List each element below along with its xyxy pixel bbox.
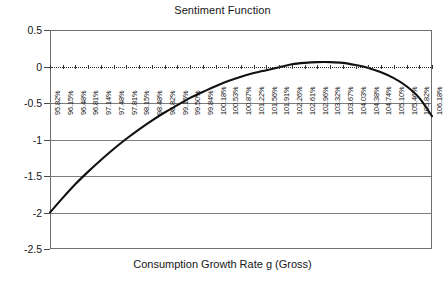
x-axis-title: Consumption Growth Rate g (Gross) — [0, 258, 445, 270]
y-axis-labels: 0.50-0.5-1-1.5-2-2.5 — [0, 30, 42, 249]
sentiment-curve — [50, 30, 432, 249]
x-axis-tick-label: 106.18% — [435, 86, 444, 114]
y-axis-tick-label: 0 — [2, 61, 42, 73]
y-axis-tick — [44, 249, 50, 250]
y-axis-tick — [44, 30, 50, 31]
sentiment-function-chart: Sentiment Function 0.50-0.5-1-1.5-2-2.5 … — [0, 0, 445, 282]
y-axis-tick-label: -2 — [2, 207, 42, 219]
y-axis-tick — [44, 103, 50, 104]
x-axis-tick — [432, 65, 433, 69]
y-axis-tick — [44, 67, 50, 68]
y-axis-tick-label: -1 — [2, 134, 42, 146]
y-axis-tick — [44, 213, 50, 214]
y-axis-tick-label: 0.5 — [2, 24, 42, 36]
y-axis-tick — [44, 176, 50, 177]
y-axis-tick-label: -2.5 — [2, 243, 42, 255]
chart-title: Sentiment Function — [0, 4, 445, 16]
y-axis-tick-label: -0.5 — [2, 97, 42, 109]
y-axis-tick — [44, 140, 50, 141]
y-axis-tick-label: -1.5 — [2, 170, 42, 182]
